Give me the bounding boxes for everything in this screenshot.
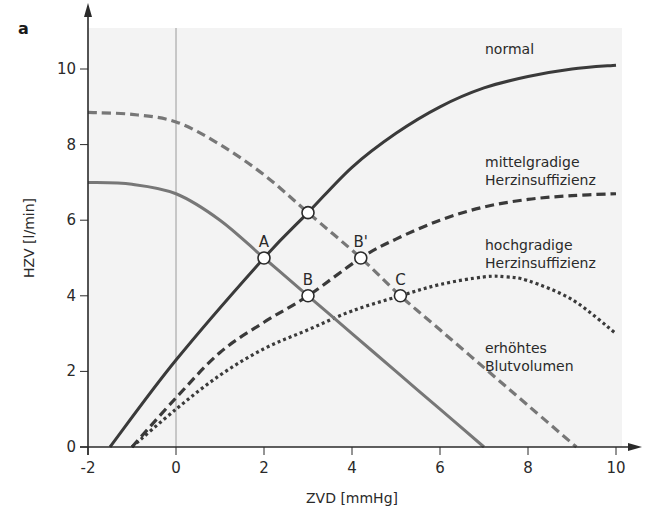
y-tick-label: 6 bbox=[66, 211, 76, 229]
point-label: C bbox=[395, 271, 405, 289]
y-axis-ticks: 0246810 bbox=[57, 60, 88, 456]
x-tick-label: 6 bbox=[435, 459, 445, 477]
panel-label: a bbox=[18, 19, 29, 38]
point-label: A bbox=[259, 233, 270, 251]
x-axis-title: ZVD [mmHg] bbox=[306, 490, 398, 506]
y-axis-arrow-icon bbox=[84, 3, 92, 17]
point-label: B bbox=[303, 271, 313, 289]
intersection-point bbox=[302, 290, 314, 302]
y-axis-title: HZV [l/min] bbox=[21, 198, 37, 278]
intersection-point bbox=[302, 207, 314, 219]
y-tick-label: 2 bbox=[66, 362, 76, 380]
x-tick-label: 2 bbox=[259, 459, 269, 477]
x-axis-ticks: -20246810 bbox=[81, 447, 626, 477]
y-tick-label: 0 bbox=[66, 438, 76, 456]
cardiac-output-venous-return-chart: ABB'C -20246810 0246810 normalmittelgrad… bbox=[0, 0, 656, 531]
y-tick-label: 10 bbox=[57, 60, 76, 78]
y-tick-label: 4 bbox=[66, 287, 76, 305]
x-tick-label: 8 bbox=[523, 459, 533, 477]
curve-annotation: normal bbox=[485, 41, 534, 57]
x-tick-label: 4 bbox=[347, 459, 357, 477]
x-tick-label: -2 bbox=[81, 459, 96, 477]
intersection-point bbox=[355, 252, 367, 264]
x-tick-label: 10 bbox=[606, 459, 625, 477]
intersection-point bbox=[394, 290, 406, 302]
x-tick-label: 0 bbox=[171, 459, 181, 477]
point-label: B' bbox=[354, 233, 368, 251]
y-tick-label: 8 bbox=[66, 136, 76, 154]
x-axis-arrow-icon bbox=[628, 443, 642, 451]
intersection-point bbox=[258, 252, 270, 264]
